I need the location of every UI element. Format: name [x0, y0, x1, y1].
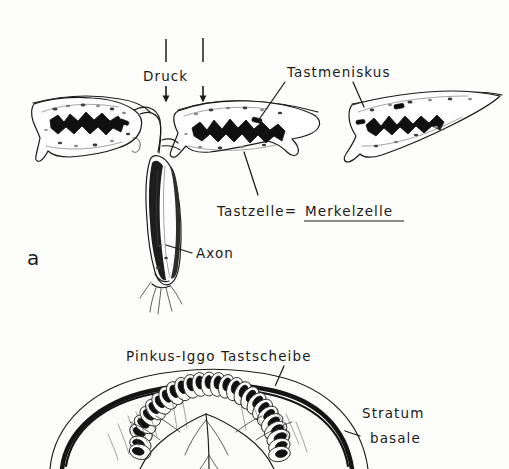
label-druck: Druck: [143, 68, 188, 84]
label-merkelzelle: Merkelzelle: [305, 203, 393, 219]
label-pinkus-iggo-tastscheibe: Pinkus-Iggo Tastscheibe: [126, 348, 312, 364]
panel-letter-a: a: [27, 246, 39, 270]
label-tastzelle: Tastzelle=: [216, 203, 297, 219]
figure-container: Druck: [0, 0, 509, 469]
label-stratum: Stratum: [362, 405, 424, 421]
tastmeniskus-disc-right-2: [356, 119, 365, 124]
histology-figure: Druck: [0, 0, 509, 469]
label-axon: Axon: [196, 245, 234, 261]
label-tastmeniskus: Tastmeniskus: [286, 64, 391, 80]
label-basale: basale: [370, 430, 421, 446]
